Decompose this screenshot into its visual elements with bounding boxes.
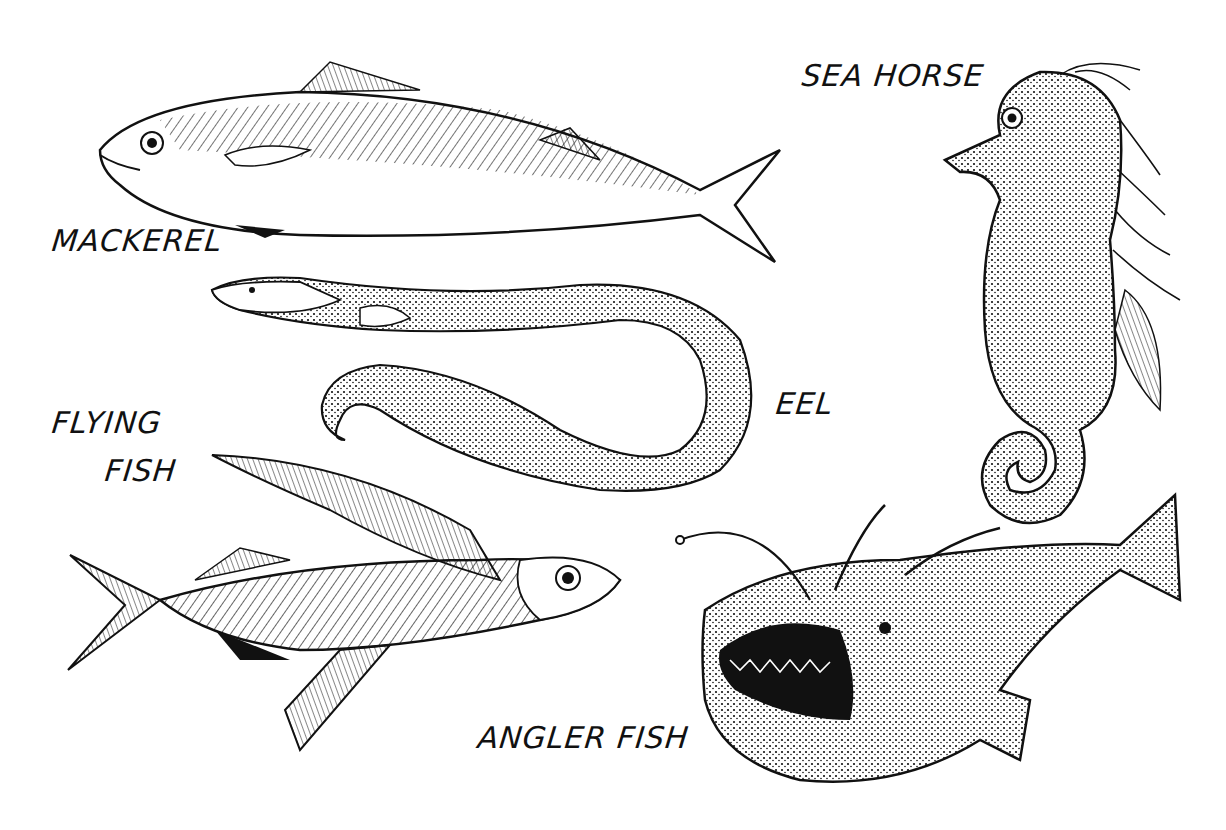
illustration-canvas bbox=[0, 0, 1226, 830]
flying-fish-label-line1: FLYING bbox=[50, 405, 164, 440]
angler-fish-label: ANGLER FISH bbox=[476, 720, 691, 755]
sea-horse-label: SEA HORSE bbox=[800, 58, 986, 93]
flying-fish-label-line2: FISH bbox=[103, 453, 178, 488]
mackerel-label: MACKEREL bbox=[50, 223, 224, 258]
sea-horse-drawing bbox=[945, 64, 1180, 523]
flying-fish-drawing bbox=[68, 455, 620, 750]
eel-drawing bbox=[212, 278, 751, 491]
angler-fish-drawing bbox=[676, 495, 1180, 782]
eel-label: EEL bbox=[774, 386, 835, 421]
